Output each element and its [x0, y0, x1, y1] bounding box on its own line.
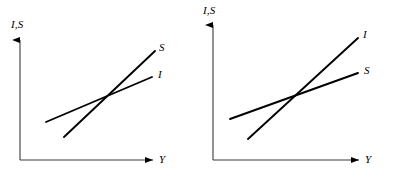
curve-s-line	[64, 51, 155, 137]
curve-i-line	[248, 38, 358, 139]
x-axis-label: Y	[365, 154, 371, 165]
curve-label-s: S	[159, 42, 165, 53]
curve-label-s: S	[364, 65, 370, 76]
diagram-panel-right: I,S Y I S	[197, 0, 394, 179]
y-axis-label: I,S	[11, 19, 24, 30]
curve-s-line	[230, 73, 358, 119]
curve-i-line	[46, 77, 152, 122]
curve-label-i: I	[158, 69, 162, 80]
figure-container: I,S Y S I I,S Y I	[0, 0, 394, 179]
x-axis-label: Y	[159, 154, 165, 165]
left-panel-drawing	[0, 0, 197, 179]
diagram-panel-left: I,S Y S I	[0, 0, 197, 179]
y-axis-label: I,S	[203, 5, 216, 16]
curve-label-i: I	[363, 29, 367, 40]
